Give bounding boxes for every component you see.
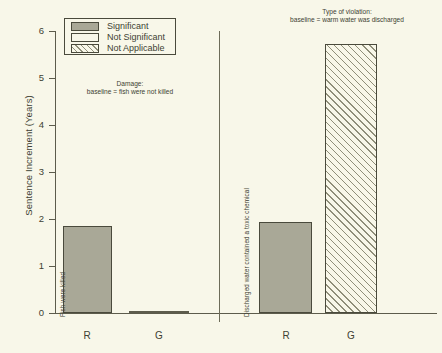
legend-label-not-significant: Not Significant <box>107 33 165 42</box>
y-tick-label-0: 0 <box>30 308 44 317</box>
y-tick-label-6: 6 <box>30 26 44 35</box>
bar-left-R <box>63 226 112 313</box>
bar-caption-left: Fish were killed <box>59 272 66 317</box>
y-tick-label-4: 4 <box>30 120 44 129</box>
left-panel-note-line2: baseline = fish were not killed <box>60 88 200 96</box>
y-axis-line <box>55 31 56 314</box>
y-tick-4 <box>49 125 55 126</box>
legend-item-significant: Significant <box>65 21 175 32</box>
right-panel-note: Type of violation: baseline = warm water… <box>262 8 432 24</box>
y-tick-2 <box>49 219 55 220</box>
y-tick-label-5: 5 <box>30 73 44 82</box>
legend-label-not-applicable: Not Applicable <box>107 44 165 53</box>
legend-label-significant: Significant <box>107 22 149 31</box>
panel-divider <box>219 31 220 322</box>
legend-swatch-not-significant-icon <box>71 33 99 42</box>
right-panel-note-line2: baseline = warm water was discharged <box>262 16 432 24</box>
bar-right-G <box>325 44 377 313</box>
legend-item-not-significant: Not Significant <box>65 32 175 43</box>
legend-item-not-applicable: Not Applicable <box>65 43 175 54</box>
left-panel-note: Damage: baseline = fish were not killed <box>60 80 200 96</box>
legend-swatch-not-applicable-icon <box>71 44 99 53</box>
bar-right-R <box>259 222 312 313</box>
legend-swatch-significant-icon <box>71 22 99 31</box>
y-tick-6 <box>49 31 55 32</box>
bar-caption-right: Discharged water contained a toxic chemi… <box>243 188 250 317</box>
y-axis-label: Sentence Increment (Years) <box>23 56 34 256</box>
bar-left-G <box>129 311 189 313</box>
x-tick-label-right-R: R <box>271 330 301 341</box>
y-tick-label-2: 2 <box>30 214 44 223</box>
left-panel-note-line1: Damage: <box>60 80 200 88</box>
y-tick-1 <box>49 266 55 267</box>
x-tick-label-right-G: G <box>336 330 366 341</box>
y-tick-label-1: 1 <box>30 261 44 270</box>
y-tick-label-3: 3 <box>30 167 44 176</box>
y-tick-3 <box>49 172 55 173</box>
x-tick-label-left-G: G <box>144 330 174 341</box>
x-tick-label-left-R: R <box>72 330 102 341</box>
bar-chart: Sentence Increment (Years) 0 1 2 3 4 5 6… <box>0 0 442 353</box>
right-panel-note-line1: Type of violation: <box>262 8 432 16</box>
y-tick-5 <box>49 78 55 79</box>
legend: Significant Not Significant Not Applicab… <box>64 18 176 55</box>
